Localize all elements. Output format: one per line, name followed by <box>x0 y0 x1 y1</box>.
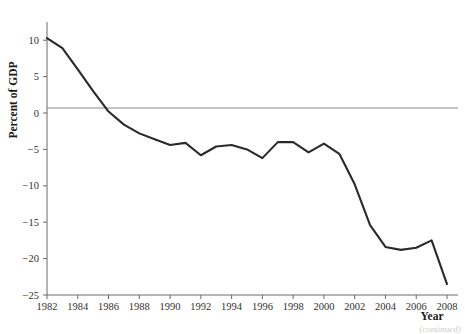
x-tick-label: 1990 <box>160 301 181 312</box>
x-axis-label: Year <box>421 310 444 322</box>
y-tick-label: 10 <box>29 35 40 46</box>
y-tick-label: −20 <box>23 253 39 264</box>
y-tick-label: 5 <box>34 71 39 82</box>
continued-note: (continued) <box>419 324 460 334</box>
y-tick-label: −10 <box>23 180 39 191</box>
x-tick-label: 1982 <box>37 301 58 312</box>
y-tick-label: −15 <box>23 217 39 228</box>
y-tick-label: −25 <box>23 290 39 301</box>
y-axis-label: Percent of GDP <box>7 61 19 138</box>
x-tick-label: 1996 <box>252 301 273 312</box>
x-tick-label: 2000 <box>313 301 334 312</box>
x-tick-label: 1988 <box>129 301 150 312</box>
chart-figure: 1050−5−10−15−20−25 198219841986198819901… <box>0 0 474 334</box>
y-tick-label: −5 <box>28 144 39 155</box>
x-tick-label: 1992 <box>190 301 211 312</box>
y-tick-label: 0 <box>34 108 39 119</box>
x-tick-label: 1984 <box>67 301 89 312</box>
x-tick-label: 2002 <box>344 301 365 312</box>
x-tick-label: 1998 <box>283 301 304 312</box>
x-tick-label: 2004 <box>375 301 397 312</box>
figure-background <box>0 0 474 334</box>
x-tick-label: 1994 <box>221 301 243 312</box>
x-tick-label: 1986 <box>98 301 119 312</box>
